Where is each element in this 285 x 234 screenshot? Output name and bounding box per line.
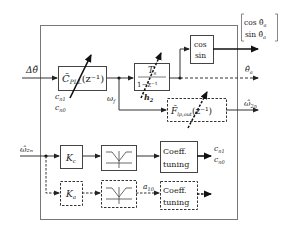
omega-2n-to-ka-line [46,156,59,193]
trig-block: cos sin [191,36,214,64]
label-out-cn0: cn0 [214,155,225,165]
svg-text:Coeff.: Coeff. [163,147,187,156]
cpll-block: C̃PLL(z⁻¹) [59,67,107,91]
input-delta-theta-label: Δθ̃ [25,65,38,75]
svg-text:sin: sin [195,51,206,60]
input-omega-2n-label: ω̂₂ₙ [20,145,33,154]
svg-text:tuning: tuning [163,160,189,169]
svg-text:cos θ̂a: cos θ̂a [244,18,266,28]
filter-top-block [102,146,137,171]
ka-block: Ka [61,182,83,206]
kc-block: Kc [61,146,83,169]
label-out-cn1: cn1 [214,144,225,154]
coeff-tuning-bottom-block: Coeff. tuning [161,182,198,210]
svg-text:C̃PLL(z⁻¹): C̃PLL(z⁻¹) [62,73,104,85]
integrator-block: Ts 1−z⁻¹ [135,64,170,91]
svg-text:cos: cos [194,40,207,49]
label-omega-f: ωf [107,94,116,105]
label-cn0: cn0 [55,103,66,113]
filter-bottom-block [102,181,137,208]
label-cn1: cn1 [55,92,66,102]
label-theta-a: θ̂a [245,65,253,75]
label-a10: a10 [143,182,155,192]
label-h2: h2 [144,92,154,103]
theta-to-trig-line [180,49,189,78]
label-omega-2n-out: ω̂2n [244,99,257,109]
svg-text:sin θ̂a: sin θ̂a [245,30,266,40]
pll-block-diagram: Δθ̃ C̃PLL(z⁻¹) cn1 cn0 ωf Ts 1−z⁻¹ h2 θ̂… [0,0,285,234]
vector-output-label: cos θ̂a sin θ̂a [242,14,278,41]
coeff-tuning-top-block: Coeff. tuning [161,142,198,173]
svg-text:Coeff.: Coeff. [163,186,187,195]
svg-text:tuning: tuning [163,198,189,207]
